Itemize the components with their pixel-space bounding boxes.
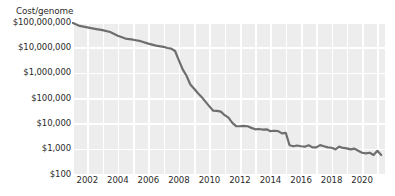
x-tick-label: 2002: [77, 176, 98, 185]
y-tick-label: $100,000: [1, 94, 71, 103]
x-tick-label: 2004: [107, 176, 128, 185]
y-axis-tick-labels: $100,000,000$10,000,000$1,000,000$100,00…: [0, 0, 71, 196]
y-tick-label: $1,000: [1, 144, 71, 153]
y-tick-label: $10,000: [1, 119, 71, 128]
x-tick-label: 2010: [199, 176, 220, 185]
x-axis-tick-labels: 2002200420062008201020122014201620182020: [0, 176, 395, 190]
data-line: [72, 23, 381, 155]
x-tick-label: 2012: [229, 176, 250, 185]
series-line-cost-per-genome: [72, 22, 385, 174]
x-tick-label: 2014: [260, 176, 281, 185]
y-tick-label: $10,000,000: [1, 43, 71, 52]
plot-area: [72, 22, 385, 174]
x-tick-label: 2008: [168, 176, 189, 185]
x-tick-label: 2016: [290, 176, 311, 185]
cost-per-genome-chart: Cost/genome $100,000,000$10,000,000$1,00…: [0, 0, 395, 196]
y-tick-label: $100,000,000: [1, 18, 71, 27]
x-tick-label: 2018: [321, 176, 342, 185]
x-tick-label: 2020: [351, 176, 372, 185]
x-tick-label: 2006: [138, 176, 159, 185]
y-tick-label: $1,000,000: [1, 68, 71, 77]
